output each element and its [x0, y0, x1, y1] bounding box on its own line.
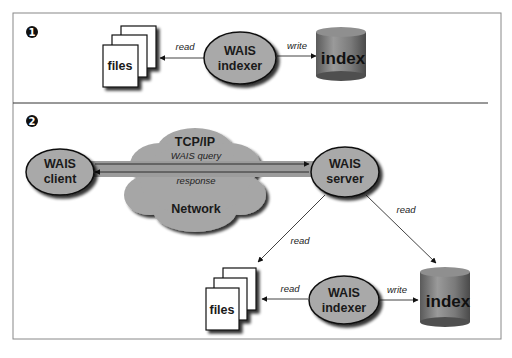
wais-indexer-node — [204, 32, 276, 84]
server-label-line1: WAIS — [329, 157, 361, 171]
wais-query-label: WAIS query — [171, 150, 223, 161]
indexer-write-label-bottom: write — [387, 284, 407, 295]
indexer-label-line2: indexer — [218, 59, 263, 73]
server-label-line2: server — [326, 172, 364, 186]
indexer-bottom-label-line1: WAIS — [328, 286, 360, 300]
server-read-files-label: read — [290, 235, 310, 246]
files-label: files — [107, 59, 132, 73]
wais-indexer-node-bottom — [309, 276, 379, 324]
client-label-line2: client — [44, 172, 77, 186]
indexer-read-label-bottom: read — [280, 283, 300, 294]
network-label: Network — [171, 202, 220, 216]
step-number-2: 2 — [29, 116, 36, 127]
indexer-bottom-label-line2: indexer — [322, 301, 367, 315]
read-label: read — [175, 41, 195, 52]
panel-1: 1 files read WAIS indexer write index — [26, 26, 366, 87]
server-read-index-label: read — [396, 204, 416, 215]
panel-2: 2 TCP/IP Network WAIS query response WAI… — [26, 115, 471, 330]
files-label-bottom: files — [209, 303, 234, 317]
response-label: response — [176, 175, 215, 186]
index-label-bottom: index — [426, 292, 471, 311]
index-label: index — [321, 49, 366, 68]
indexer-label-line1: WAIS — [224, 44, 256, 58]
files-stack-icon-bottom — [206, 268, 256, 330]
step-number-1: 1 — [29, 27, 36, 38]
files-stack-icon — [103, 26, 156, 87]
write-label: write — [287, 40, 307, 51]
client-label-line1: WAIS — [44, 157, 76, 171]
wais-diagram: 1 files read WAIS indexer write index 2 — [0, 0, 512, 358]
tcp-ip-label: TCP/IP — [175, 135, 215, 149]
server-read-files-arrow — [258, 195, 325, 262]
